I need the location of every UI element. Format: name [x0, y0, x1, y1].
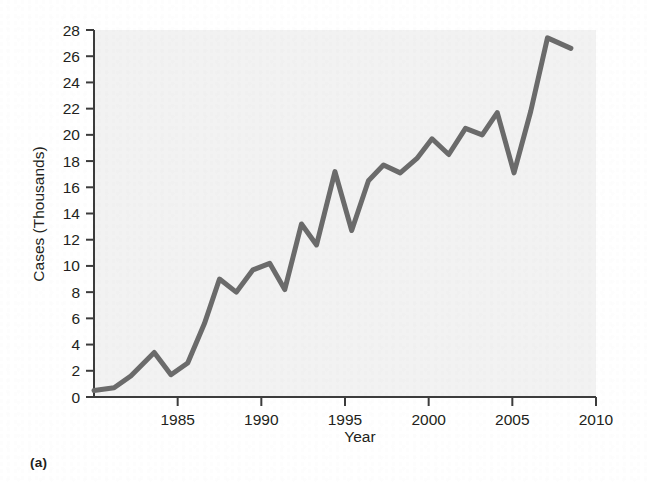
- y-tick-label: 16: [63, 179, 80, 196]
- x-tick-label: 2000: [411, 411, 446, 428]
- y-tick-label: 10: [63, 257, 81, 274]
- y-tick-label: 8: [71, 284, 80, 301]
- y-axis-ticks: 0246810121416182022242628: [63, 22, 94, 406]
- x-tick-label: 1985: [160, 411, 194, 428]
- y-tick-label: 28: [63, 22, 80, 39]
- line-chart: 0246810121416182022242628 19851990199520…: [0, 0, 647, 483]
- y-axis-title: Cases (Thousands): [30, 146, 47, 281]
- y-tick-label: 4: [71, 336, 80, 353]
- figure-panel: 0246810121416182022242628 19851990199520…: [0, 0, 647, 483]
- x-axis-ticks: 198519901995200020052010: [160, 397, 613, 428]
- y-tick-label: 22: [63, 100, 80, 117]
- y-tick-label: 20: [63, 126, 81, 143]
- y-tick-label: 26: [63, 48, 80, 65]
- x-tick-label: 2010: [579, 411, 614, 428]
- panel-label: (a): [30, 455, 47, 470]
- x-tick-label: 2005: [495, 411, 529, 428]
- y-tick-label: 18: [63, 153, 80, 170]
- y-tick-label: 0: [71, 389, 80, 406]
- x-tick-label: 1995: [328, 411, 362, 428]
- y-tick-label: 14: [63, 205, 81, 222]
- y-tick-label: 12: [63, 231, 80, 248]
- x-tick-label: 1990: [244, 411, 279, 428]
- x-axis-title: Year: [344, 428, 375, 445]
- y-tick-label: 24: [63, 74, 81, 91]
- y-tick-label: 6: [71, 310, 80, 327]
- y-tick-label: 2: [71, 362, 80, 379]
